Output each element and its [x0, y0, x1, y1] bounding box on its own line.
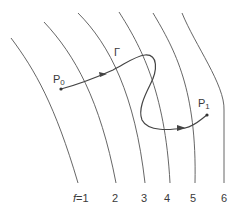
level-curve-1: [11, 38, 78, 183]
p0-subscript: 0: [60, 78, 64, 87]
direction-arrow-icon: [177, 125, 186, 131]
label-p1: P1: [198, 98, 210, 112]
level-label-6: 6: [221, 193, 227, 204]
level-label-1: f=1: [73, 193, 89, 204]
label-gamma: Γ: [114, 47, 120, 58]
level-curve-3: [78, 13, 145, 183]
path-gamma: [61, 55, 207, 130]
level-curve-2: [44, 22, 116, 183]
level-value-1: =1: [76, 192, 89, 204]
p1-subscript: 1: [205, 102, 209, 111]
label-p0: P0: [53, 74, 65, 88]
level-label-5: 5: [190, 193, 196, 204]
level-label-2: 2: [112, 193, 118, 204]
level-label-3: 3: [141, 193, 147, 204]
level-curve-5: [153, 13, 195, 183]
level-curve-diagram: P0 P1 Γ f=1 2 3 4 5 6: [0, 0, 241, 211]
level-label-4: 4: [164, 193, 170, 204]
end-point-p1: [205, 113, 208, 116]
